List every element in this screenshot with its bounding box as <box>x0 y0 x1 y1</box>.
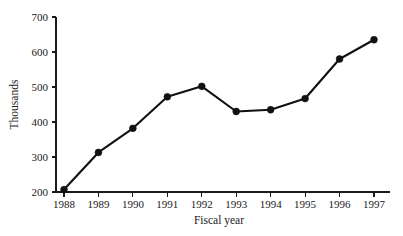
line-chart: 200300400500600700 198819891990199119921… <box>0 0 403 236</box>
data-point <box>198 83 205 90</box>
data-point <box>95 149 102 156</box>
data-point <box>129 125 136 132</box>
data-point <box>267 106 274 113</box>
x-tick-label: 1997 <box>363 198 386 210</box>
x-tick-label: 1989 <box>87 198 110 210</box>
y-tick-label: 400 <box>32 116 49 128</box>
data-line <box>64 40 374 190</box>
data-point <box>336 56 343 63</box>
x-axis-title: Fiscal year <box>194 214 244 227</box>
data-point <box>164 93 171 100</box>
chart-canvas: 200300400500600700 198819891990199119921… <box>0 0 403 236</box>
x-tick-label: 1993 <box>225 198 248 210</box>
y-tick-label: 700 <box>32 11 49 23</box>
x-tick-label: 1995 <box>294 198 317 210</box>
y-tick-label: 300 <box>32 151 49 163</box>
data-point <box>61 186 68 193</box>
x-tick-label: 1992 <box>191 198 213 210</box>
x-tick-label: 1988 <box>53 198 76 210</box>
y-axis-title: Thousands <box>8 79 20 129</box>
x-tick-label: 1994 <box>260 198 283 210</box>
y-tick-label: 500 <box>32 81 49 93</box>
data-point <box>371 36 378 43</box>
y-axis-tick-labels: 200300400500600700 <box>32 11 49 198</box>
y-axis-ticks <box>52 17 57 192</box>
x-tick-label: 1990 <box>122 198 145 210</box>
y-tick-label: 600 <box>32 46 49 58</box>
x-axis-ticks <box>64 192 374 197</box>
data-markers <box>61 36 378 193</box>
x-tick-label: 1991 <box>156 198 178 210</box>
x-tick-label: 1996 <box>329 198 352 210</box>
y-tick-label: 200 <box>32 186 49 198</box>
data-point <box>233 108 240 115</box>
data-point <box>302 95 309 102</box>
axis-lines <box>56 17 390 192</box>
x-axis-tick-labels: 1988198919901991199219931994199519961997 <box>53 198 386 210</box>
